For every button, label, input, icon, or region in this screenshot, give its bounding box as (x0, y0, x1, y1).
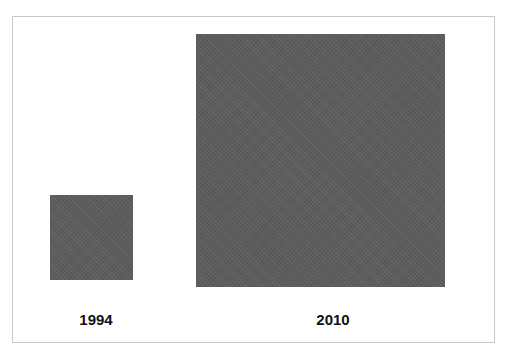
label-1994: 1994 (46, 312, 146, 328)
label-2010: 2010 (283, 312, 383, 328)
square-2010 (196, 34, 445, 287)
square-1994 (50, 195, 133, 280)
